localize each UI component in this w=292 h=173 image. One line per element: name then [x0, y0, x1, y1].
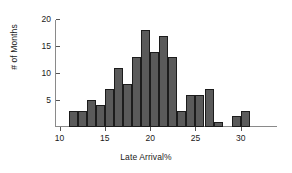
histogram-bar — [232, 116, 241, 127]
histogram-bar — [241, 111, 250, 127]
x-tick — [60, 127, 61, 131]
histogram-bar — [69, 111, 78, 127]
histogram-bar — [186, 95, 195, 127]
histogram-bar — [87, 100, 96, 127]
histogram-bar — [123, 84, 132, 127]
histogram-bar — [177, 111, 186, 127]
x-tick — [241, 127, 242, 131]
y-tick-label: 20 — [31, 15, 51, 24]
y-axis-label: # of Months — [9, 10, 19, 84]
histogram-bar — [195, 95, 204, 127]
x-tick-label: 20 — [139, 134, 161, 143]
x-axis-label: Late Arrival% — [0, 152, 292, 162]
histogram-bar — [159, 36, 168, 127]
histogram-bar — [141, 30, 150, 127]
histogram-bar — [114, 68, 123, 127]
histogram-bar — [78, 111, 87, 127]
y-tick-label: 5 — [31, 96, 51, 105]
x-tick — [105, 127, 106, 131]
histogram-bar — [205, 89, 214, 127]
x-tick — [150, 127, 151, 131]
histogram-bar — [150, 52, 159, 127]
y-tick-label: 15 — [31, 42, 51, 51]
histogram-bar — [168, 57, 177, 127]
x-tick-label: 25 — [184, 134, 206, 143]
histogram-bar — [132, 57, 141, 127]
plot-area: 5101520 1015202530 — [55, 14, 277, 128]
histogram-figure: # of Months 5101520 1015202530 Late Arri… — [0, 0, 292, 173]
histogram-bar — [96, 105, 105, 127]
y-tick-label: 10 — [31, 69, 51, 78]
bars-group — [55, 14, 277, 127]
histogram-bar — [105, 89, 114, 127]
x-tick-label: 30 — [230, 134, 252, 143]
x-tick-label: 15 — [94, 134, 116, 143]
x-tick — [195, 127, 196, 131]
x-tick-label: 10 — [49, 134, 71, 143]
histogram-bar — [214, 122, 223, 127]
